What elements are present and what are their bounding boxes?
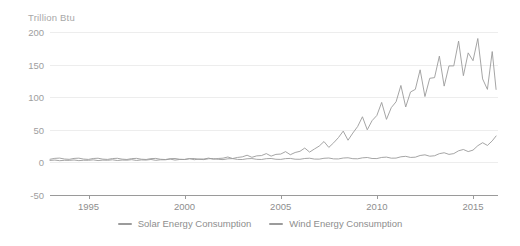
x-tick-label: 1995 <box>78 201 99 212</box>
y-tick-label: 50 <box>0 124 44 135</box>
legend-line-swatch-icon <box>118 223 132 225</box>
y-axis-title: Trillion Btu <box>28 12 75 23</box>
x-tick-mark <box>473 195 474 199</box>
plot-area <box>50 32 498 195</box>
x-tick-mark <box>377 195 378 199</box>
legend-label: Wind Energy Consumption <box>289 218 402 229</box>
x-axis-tick-labels: 19952000200520102015 <box>50 195 498 217</box>
x-tick-label: 2010 <box>366 201 387 212</box>
chart-legend: Solar Energy ConsumptionWind Energy Cons… <box>0 218 520 229</box>
chart-container: Trillion Btu 200150100500-50 19952000200… <box>0 0 520 246</box>
y-axis-tick-labels: 200150100500-50 <box>0 32 44 195</box>
series-layer <box>50 32 498 195</box>
legend-line-swatch-icon <box>269 223 283 225</box>
y-tick-label: 0 <box>0 157 44 168</box>
x-tick-label: 2005 <box>270 201 291 212</box>
legend-item[interactable]: Solar Energy Consumption <box>118 218 252 229</box>
series-line <box>50 39 496 161</box>
legend-item[interactable]: Wind Energy Consumption <box>269 218 402 229</box>
series-line <box>50 136 496 160</box>
y-tick-label: 100 <box>0 92 44 103</box>
y-tick-label: 150 <box>0 59 44 70</box>
y-tick-label: 200 <box>0 27 44 38</box>
legend-label: Solar Energy Consumption <box>138 218 252 229</box>
x-tick-mark <box>89 195 90 199</box>
x-tick-label: 2000 <box>174 201 195 212</box>
x-tick-mark <box>185 195 186 199</box>
x-tick-mark <box>281 195 282 199</box>
y-tick-label: -50 <box>0 190 44 201</box>
x-tick-label: 2015 <box>462 201 483 212</box>
